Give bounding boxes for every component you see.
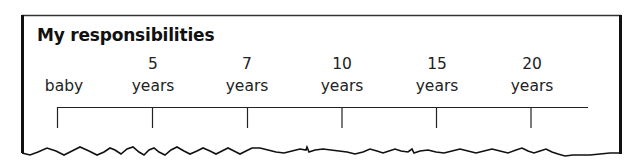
timeline-number-5: 5 bbox=[113, 55, 193, 73]
timeline-label-20-years: years bbox=[492, 77, 572, 95]
timeline-label-baby: baby bbox=[24, 77, 104, 95]
torn-bottom-edge bbox=[22, 147, 621, 156]
diagram-title: My responsibilities bbox=[37, 25, 214, 45]
timeline-label-15-years: years bbox=[397, 77, 477, 95]
timeline-label-5-years: years bbox=[113, 77, 193, 95]
timeline-number-20: 20 bbox=[492, 55, 572, 73]
timeline-number-7: 7 bbox=[207, 55, 287, 73]
timeline-label-10-years: years bbox=[302, 77, 382, 95]
timeline-label-7-years: years bbox=[207, 77, 287, 95]
timeline-number-10: 10 bbox=[302, 55, 382, 73]
timeline-number-15: 15 bbox=[397, 55, 477, 73]
